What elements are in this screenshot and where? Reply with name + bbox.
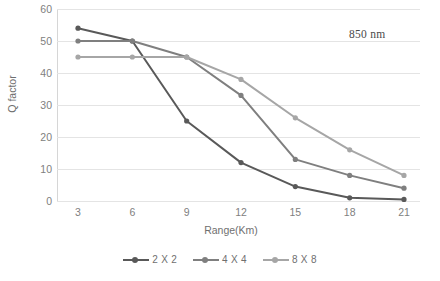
clipped-caption-text	[14, 0, 194, 2]
gridline	[57, 201, 420, 202]
legend-item[interactable]: 2 X 2	[123, 254, 177, 265]
wavelength-annotation: 850 nm	[349, 28, 386, 40]
legend-label: 8 X 8	[292, 254, 317, 265]
y-axis-ticks: 0102030405060	[16, 9, 52, 201]
y-tick-label: 30	[22, 99, 52, 111]
y-tick-label: 0	[22, 195, 52, 207]
data-point-marker	[75, 26, 80, 31]
data-point-marker	[401, 173, 406, 178]
data-point-marker	[130, 54, 135, 59]
chart-figure: 0102030405060 36912151821 Range(Km) Q fa…	[0, 0, 440, 281]
x-tick-label: 3	[58, 206, 98, 218]
series-line	[78, 57, 404, 175]
data-point-marker	[130, 38, 135, 43]
legend-item[interactable]: 8 X 8	[263, 254, 317, 265]
data-point-marker	[75, 54, 80, 59]
data-point-marker	[293, 115, 298, 120]
data-point-marker	[293, 184, 298, 189]
x-tick-label: 21	[384, 206, 424, 218]
legend-item[interactable]: 4 X 4	[193, 254, 247, 265]
legend-swatch-icon	[193, 256, 219, 264]
y-tick-label: 20	[22, 131, 52, 143]
y-tick-label: 10	[22, 163, 52, 175]
y-tick-label: 40	[22, 67, 52, 79]
data-point-marker	[238, 77, 243, 82]
data-point-marker	[238, 160, 243, 165]
series-line	[78, 28, 404, 199]
chart-legend: 2 X 24 X 48 X 8	[0, 254, 440, 265]
y-tick-label: 60	[22, 3, 52, 15]
data-point-marker	[75, 38, 80, 43]
x-tick-label: 9	[167, 206, 207, 218]
y-tick-label: 50	[22, 35, 52, 47]
y-axis-title: Q factor	[6, 64, 18, 124]
legend-label: 4 X 4	[222, 254, 247, 265]
data-point-marker	[238, 93, 243, 98]
data-point-marker	[184, 118, 189, 123]
series-line	[78, 41, 404, 188]
legend-label: 2 X 2	[152, 254, 177, 265]
data-point-marker	[184, 54, 189, 59]
data-point-marker	[401, 186, 406, 191]
x-tick-label: 12	[221, 206, 261, 218]
x-axis-title: Range(Km)	[0, 224, 440, 236]
data-point-marker	[347, 147, 352, 152]
legend-swatch-icon	[263, 256, 289, 264]
x-tick-label: 18	[330, 206, 370, 218]
legend-swatch-icon	[123, 256, 149, 264]
x-tick-label: 6	[112, 206, 152, 218]
data-point-marker	[401, 197, 406, 202]
data-point-marker	[347, 195, 352, 200]
x-tick-label: 15	[275, 206, 315, 218]
data-point-marker	[293, 157, 298, 162]
data-point-marker	[347, 173, 352, 178]
